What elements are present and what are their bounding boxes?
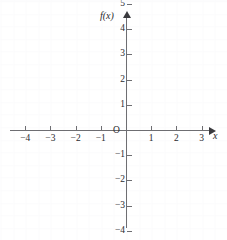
x-tick-mark	[151, 126, 152, 131]
y-tick-label: −4	[112, 226, 125, 236]
x-tick-mark	[101, 126, 102, 131]
y-tick-label: −2	[112, 176, 125, 186]
y-tick-label: 5	[112, 0, 125, 9]
y-tick-mark	[127, 155, 132, 156]
y-tick-mark	[127, 231, 132, 232]
x-tick-mark	[25, 126, 26, 131]
y-tick-label: 1	[112, 100, 125, 110]
x-tick-mark	[76, 126, 77, 131]
y-axis-arrow-icon	[123, 11, 131, 18]
y-tick-label: −1	[112, 150, 125, 160]
x-axis-label: x	[213, 131, 217, 141]
coordinate-plane: f(x) x O −4−3−2−1123 7654321−1−2−3−4−5−6…	[0, 0, 227, 240]
x-tick-mark	[176, 126, 177, 131]
x-tick-label: 3	[199, 134, 204, 144]
x-axis-line	[10, 130, 210, 131]
x-tick-label: 1	[149, 134, 154, 144]
y-tick-mark	[127, 54, 132, 55]
y-tick-mark	[127, 105, 132, 106]
y-axis-label: f(x)	[100, 11, 114, 21]
y-tick-label: 4	[112, 24, 125, 34]
origin-label: O	[113, 126, 120, 136]
y-tick-mark	[127, 4, 132, 5]
y-axis-line	[126, 16, 127, 228]
x-tick-label: −3	[45, 134, 55, 144]
y-tick-mark	[127, 180, 132, 181]
x-tick-label: −2	[71, 134, 81, 144]
y-tick-mark	[127, 80, 132, 81]
y-tick-mark	[127, 206, 132, 207]
x-tick-label: 2	[174, 134, 179, 144]
x-tick-label: −4	[20, 134, 30, 144]
y-tick-label: −3	[112, 201, 125, 211]
y-tick-mark	[127, 29, 132, 30]
y-tick-label: 3	[112, 50, 125, 60]
x-tick-mark	[202, 126, 203, 131]
x-tick-mark	[50, 126, 51, 131]
x-tick-label: −1	[96, 134, 106, 144]
y-tick-label: 2	[112, 75, 125, 85]
